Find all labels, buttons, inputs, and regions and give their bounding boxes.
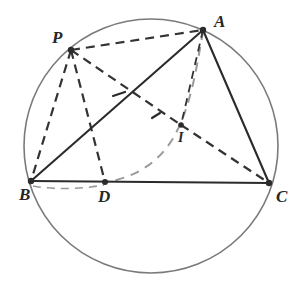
vertex-dot-C — [266, 180, 272, 186]
segment-B-C — [31, 181, 269, 183]
vertex-label-P: P — [52, 29, 62, 46]
vertex-label-I: I — [178, 131, 183, 145]
vertex-label-C: C — [276, 188, 287, 205]
vertex-dot-I — [178, 122, 184, 128]
vertex-dot-P — [68, 47, 74, 53]
vertex-dot-A — [200, 27, 206, 33]
segment-P-B — [31, 50, 71, 181]
vertex-label-D: D — [98, 188, 110, 205]
segment-A-B — [31, 30, 203, 181]
tick-on-PI — [152, 113, 160, 118]
vertex-dot-D — [102, 179, 108, 185]
vertex-label-A: A — [214, 13, 225, 30]
vertex-dot-B — [28, 178, 34, 184]
segment-A-I-extended — [181, 30, 203, 125]
geometry-canvas — [0, 0, 302, 301]
arc-A-to-D — [107, 31, 203, 182]
vertex-label-B: B — [19, 186, 30, 203]
circumcircle — [24, 19, 278, 273]
geometry-figure: APBCDI — [0, 0, 302, 301]
light-dashed-arc-group — [33, 31, 203, 189]
tick-on-AB — [113, 92, 125, 96]
dark-dashed-segment-group — [31, 30, 269, 183]
arc-B-to-D-lower — [33, 185, 104, 189]
